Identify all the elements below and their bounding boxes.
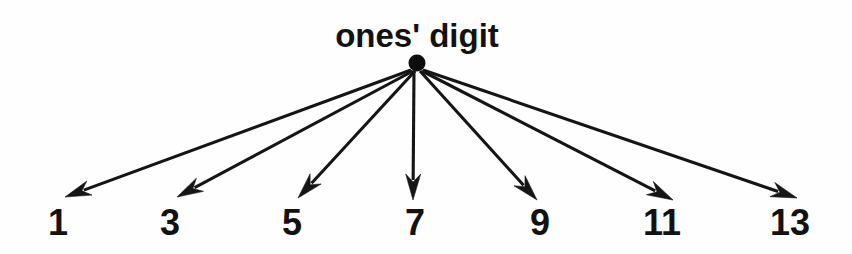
branch-label-13: 13: [770, 202, 810, 243]
branch-label-7: 7: [405, 202, 425, 243]
edge-to-7: [413, 71, 414, 180]
branch-label-11: 11: [643, 202, 681, 243]
branch-label-9: 9: [530, 202, 550, 243]
branch-label-3: 3: [160, 202, 180, 243]
page-title: ones' digit: [335, 17, 499, 54]
branch-label-5: 5: [282, 202, 302, 243]
branch-label-1: 1: [48, 202, 68, 243]
ones-digit-hub-node: [409, 55, 426, 72]
diagram-canvas: ones' digit 135791113: [0, 0, 852, 254]
radial-tree-diagram: ones' digit 135791113: [0, 0, 852, 254]
